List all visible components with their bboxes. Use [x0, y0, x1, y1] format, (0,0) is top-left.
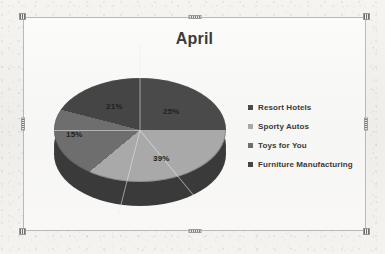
legend-item-label: Sporty Autos — [258, 122, 309, 131]
legend-item-label: Furniture Manufacturing — [258, 160, 353, 169]
slice-label-resort-hotels: 25% — [163, 107, 180, 116]
legend-item-sporty-autos[interactable]: Sporty Autos — [248, 117, 365, 136]
legend-item-label: Toys for You — [258, 141, 307, 150]
slice-label-furniture-manufacturing: 21% — [106, 102, 123, 111]
resize-handle-top-left[interactable] — [19, 13, 26, 20]
legend-swatch-icon — [248, 162, 253, 167]
legend-item-toys-for-you[interactable]: Toys for You — [248, 136, 365, 155]
chart-area[interactable]: April 25% 39% 15% 21% — [24, 18, 365, 230]
resize-handle-bottom-left[interactable] — [19, 228, 26, 235]
legend-item-label: Resort Hotels — [258, 103, 311, 112]
chart-legend[interactable]: Resort Hotels Sporty Autos Toys for You … — [248, 98, 365, 174]
slice-label-sporty-autos: 39% — [153, 154, 170, 163]
slice-label-toys-for-you: 15% — [66, 130, 83, 139]
legend-swatch-icon — [248, 105, 253, 110]
resize-handle-bottom-right[interactable] — [363, 228, 370, 235]
resize-handle-middle-left[interactable] — [21, 118, 25, 131]
legend-swatch-icon — [248, 124, 253, 129]
plot-area[interactable]: 25% 39% 15% 21% — [40, 62, 240, 212]
legend-item-resort-hotels[interactable]: Resort Hotels — [248, 98, 365, 117]
resize-handle-top-right[interactable] — [363, 13, 370, 20]
chart-title: April — [24, 30, 365, 48]
pie-chart[interactable]: 25% 39% 15% 21% — [54, 78, 226, 182]
legend-swatch-icon — [248, 143, 253, 148]
resize-handle-middle-right[interactable] — [364, 118, 368, 131]
slice-separator-0 — [140, 45, 141, 131]
chart-object[interactable]: April 25% 39% 15% 21% — [23, 17, 366, 231]
legend-item-furniture-manufacturing[interactable]: Furniture Manufacturing — [248, 155, 365, 174]
resize-handle-top-center[interactable] — [188, 15, 201, 19]
resize-handle-bottom-center[interactable] — [188, 229, 201, 233]
